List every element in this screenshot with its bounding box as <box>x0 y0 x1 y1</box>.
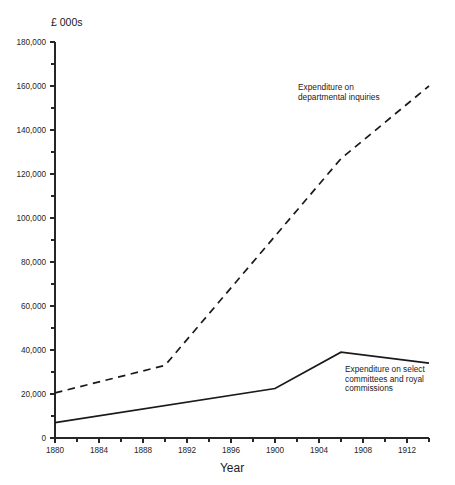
series-annotation-line: departmental inquiries <box>298 92 380 102</box>
x-tick-label: 1888 <box>134 446 153 455</box>
series-annotation-line: Expenditure on <box>298 82 354 92</box>
x-tick-label: 1908 <box>354 446 373 455</box>
y-tick-label: 160,000 <box>16 82 46 91</box>
series-line-1 <box>55 86 429 393</box>
y-tick-label: 120,000 <box>16 170 46 179</box>
series-annotation-line: committees and royal <box>345 374 424 384</box>
y-tick-label: 40,000 <box>21 346 46 355</box>
y-tick-label: 180,000 <box>16 38 46 47</box>
series-annotations: Expenditure ondepartmental inquiriesExpe… <box>298 82 425 393</box>
x-tick-label: 1884 <box>90 446 109 455</box>
y-tick-label: 60,000 <box>21 302 46 311</box>
series-annotation-line: Expenditure on select <box>345 364 425 374</box>
x-axis-title: Year <box>220 461 244 475</box>
x-tick-label: 1900 <box>266 446 285 455</box>
y-axis-tick-labels: 020,00040,00060,00080,000100,000120,0001… <box>16 38 46 443</box>
x-tick-label: 1892 <box>178 446 197 455</box>
series-annotation-line: commissions <box>345 383 393 393</box>
y-tick-label: 20,000 <box>21 390 46 399</box>
x-tick-label: 1912 <box>398 446 417 455</box>
chart-container: 020,00040,00060,00080,000100,000120,0001… <box>0 0 455 485</box>
x-tick-label: 1896 <box>222 446 241 455</box>
x-tick-label: 1904 <box>310 446 329 455</box>
line-chart: 020,00040,00060,00080,000100,000120,0001… <box>0 0 455 485</box>
x-axis-tick-labels: 188018841888189218961900190419081912 <box>46 446 417 455</box>
y-axis-title: £ 000s <box>51 16 83 28</box>
x-tick-label: 1880 <box>46 446 65 455</box>
y-tick-label: 140,000 <box>16 126 46 135</box>
y-tick-label: 80,000 <box>21 258 46 267</box>
y-tick-label: 100,000 <box>16 214 46 223</box>
y-tick-label: 0 <box>41 434 46 443</box>
